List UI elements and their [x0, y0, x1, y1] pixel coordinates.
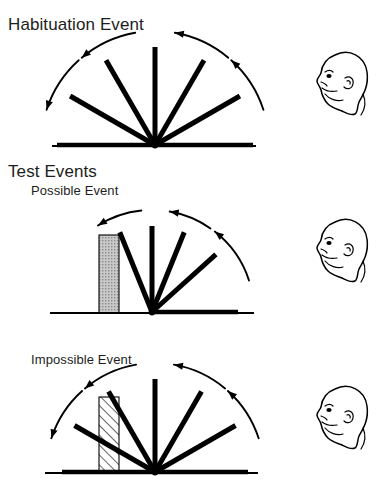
drawbridge-diagram	[0, 0, 387, 500]
ear-inner	[347, 415, 350, 418]
observer-head	[317, 386, 367, 449]
rotation-arrow-head	[51, 429, 58, 439]
ear-inner	[347, 81, 350, 84]
chin-line	[325, 261, 343, 268]
eye	[326, 408, 331, 412]
eyebrow	[325, 238, 333, 240]
eye	[326, 241, 331, 245]
mouth-line	[322, 88, 337, 91]
mouth-line	[322, 422, 337, 425]
ear-outline	[344, 411, 353, 423]
possible-rotation-arrows	[98, 210, 249, 281]
ear-inner	[347, 248, 350, 251]
rotation-arrow-head	[85, 380, 94, 389]
rotation-arrow-head	[46, 100, 53, 110]
eyebrow	[325, 71, 333, 73]
screen-arm	[120, 232, 152, 312]
possible-screen-arms	[120, 226, 238, 315]
observer-heads	[317, 52, 367, 449]
occluder-box	[99, 235, 119, 313]
panel-impossible	[45, 363, 259, 476]
eye	[326, 74, 331, 78]
rotation-arrow-head	[82, 49, 91, 58]
rotation-arrow-head	[170, 210, 179, 217]
figure-root: Habituation Event Test Events Possible E…	[0, 0, 387, 500]
possible-occluder-box	[99, 235, 119, 313]
rotation-arrow-head	[98, 218, 108, 226]
ear-outline	[344, 77, 353, 89]
nose-line	[321, 249, 327, 253]
rotation-arrow-head	[175, 31, 184, 38]
eyebrow	[325, 405, 333, 407]
nose-line	[321, 416, 327, 420]
habituation-screen-arms	[57, 47, 253, 148]
observer-head	[317, 219, 367, 282]
rotation-arrow-head	[174, 363, 183, 370]
chin-line	[325, 428, 343, 435]
nose-line	[321, 82, 327, 86]
mouth-line	[322, 255, 337, 258]
impossible-screen-arms	[62, 379, 248, 475]
observer-head	[317, 52, 367, 115]
panel-possible	[50, 210, 254, 316]
chin-line	[325, 94, 343, 101]
panel-habituation	[46, 31, 263, 149]
ear-outline	[344, 244, 353, 256]
